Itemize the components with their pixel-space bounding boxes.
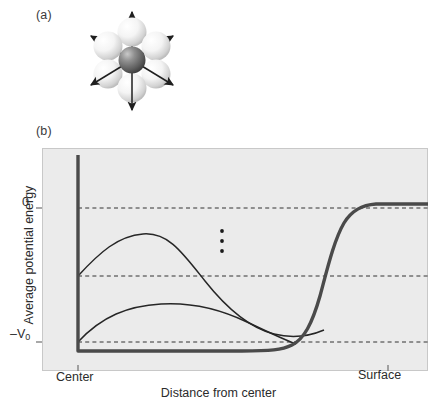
figure-root: (a): [0, 0, 437, 414]
nucleus-svg: [70, 6, 195, 121]
shell-sphere-upper-left: [94, 32, 123, 61]
plot-canvas: [42, 148, 428, 371]
panel-b-potential-chart: 0 –V0 Center Surface Distance from cente…: [0, 132, 437, 414]
central-nucleon-sphere: [119, 47, 146, 74]
wavefunction-ground-curve: [78, 304, 296, 344]
energy-level-group: [78, 208, 428, 342]
tick-mark-group: [78, 365, 388, 371]
wavefunction-excited-curve: [78, 234, 324, 337]
panel-a-nucleus-diagram: [70, 6, 195, 121]
panel-a-label: (a): [36, 8, 52, 22]
vertical-ellipsis-icon: [220, 229, 224, 253]
x-axis-title: Distance from center: [0, 386, 437, 400]
xtick-label-surface: Surface: [358, 368, 401, 382]
xtick-label-center: Center: [56, 370, 94, 384]
average-potential-curve: [78, 155, 428, 351]
shell-sphere-upper-right: [142, 32, 171, 61]
y-axis-title: Average potential energy: [22, 140, 36, 370]
